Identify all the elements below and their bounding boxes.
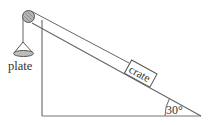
angle-label: 30° [166, 103, 183, 117]
plate-label: plate [8, 59, 33, 73]
rope-line [31, 11, 129, 63]
plate-icon [14, 42, 34, 57]
pulley [23, 11, 35, 23]
rope [23, 11, 129, 63]
incline-pulley-diagram: plate crate 30° [0, 0, 209, 125]
